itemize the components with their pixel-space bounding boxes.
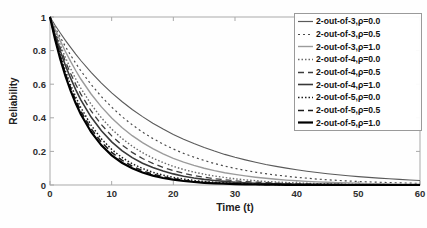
legend-line-sample	[297, 68, 314, 77]
y-tick-label: 0.8	[33, 45, 46, 56]
legend-item-label: 2-out-of-5,ρ=0.5	[316, 105, 380, 115]
legend-line-sample	[297, 42, 314, 51]
legend-item: 2-out-of-3,ρ=0.5	[297, 28, 421, 41]
x-tick-label: 60	[415, 188, 426, 199]
y-axis-label: Reliability	[8, 77, 19, 124]
x-tick-label: 20	[168, 188, 179, 199]
x-tick-label: 50	[353, 188, 364, 199]
legend-item: 2-out-of-4,ρ=1.0	[297, 78, 421, 91]
legend-line-sample	[297, 93, 314, 102]
y-tick-label: 1	[41, 12, 47, 23]
legend-item-label: 2-out-of-4,ρ=1.0	[316, 80, 380, 90]
x-tick-label: 0	[47, 188, 52, 199]
legend-line-sample	[297, 30, 314, 39]
x-axis-label: Time (t)	[50, 201, 420, 213]
legend-item-label: 2-out-of-5,ρ=0.0	[316, 92, 380, 102]
legend-line-sample	[297, 118, 314, 127]
x-tick-label: 40	[291, 188, 302, 199]
reliability-figure: 010203040506000.20.40.60.81 Reliability …	[0, 0, 427, 228]
y-tick-label: 0.6	[33, 79, 46, 90]
legend-item: 2-out-of-3,ρ=1.0	[297, 40, 421, 53]
legend-item-label: 2-out-of-4,ρ=0.5	[316, 67, 380, 77]
legend-item: 2-out-of-3,ρ=0.0	[297, 15, 421, 28]
legend-line-sample	[297, 106, 314, 115]
x-tick-label: 30	[230, 188, 241, 199]
legend-item-label: 2-out-of-4,ρ=0.0	[316, 54, 380, 64]
y-tick-label: 0	[41, 180, 46, 191]
legend-item: 2-out-of-4,ρ=0.0	[297, 53, 421, 66]
legend-line-sample	[297, 17, 314, 26]
legend-item: 2-out-of-4,ρ=0.5	[297, 66, 421, 79]
legend-item-label: 2-out-of-3,ρ=0.0	[316, 16, 380, 26]
legend-line-sample	[297, 55, 314, 64]
legend-item: 2-out-of-5,ρ=0.5	[297, 104, 421, 117]
x-tick-label: 10	[106, 188, 117, 199]
legend: 2-out-of-3,ρ=0.02-out-of-3,ρ=0.52-out-of…	[294, 13, 422, 131]
y-tick-label: 0.2	[33, 146, 46, 157]
legend-item-label: 2-out-of-3,ρ=1.0	[316, 42, 380, 52]
y-tick-label: 0.4	[33, 112, 47, 123]
legend-item: 2-out-of-5,ρ=0.0	[297, 91, 421, 104]
legend-item-label: 2-out-of-5,ρ=1.0	[316, 118, 380, 128]
legend-line-sample	[297, 80, 314, 89]
legend-item: 2-out-of-5,ρ=1.0	[297, 117, 421, 130]
legend-item-label: 2-out-of-3,ρ=0.5	[316, 29, 380, 39]
